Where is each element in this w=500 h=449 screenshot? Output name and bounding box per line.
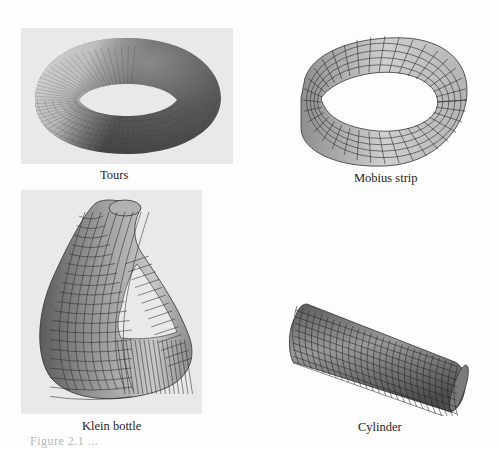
cylinder-illustration	[285, 298, 477, 416]
torus-illustration	[21, 28, 233, 164]
torus-figure	[21, 28, 233, 164]
mobius-illustration	[295, 28, 475, 170]
klein-label: Klein bottle	[82, 419, 141, 434]
torus-label: Tours	[100, 168, 128, 183]
cylinder-figure	[285, 298, 477, 416]
mobius-figure	[295, 28, 475, 170]
klein-illustration	[21, 190, 202, 414]
cylinder-label: Cylinder	[358, 420, 402, 435]
mobius-label: Mobius strip	[354, 171, 418, 186]
klein-figure	[21, 190, 202, 414]
figure-caption: Figure 2.1 ...	[30, 434, 98, 449]
